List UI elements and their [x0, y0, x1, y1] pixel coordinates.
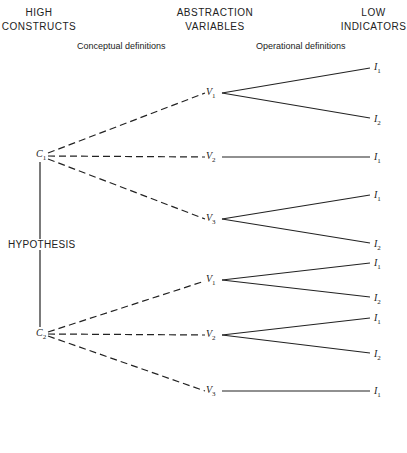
indicator: I2	[374, 348, 381, 362]
variable-c1-v1: V1	[206, 86, 216, 100]
hypothesis-label: HYPOTHESIS	[8, 239, 75, 250]
construct-c2: C2	[36, 327, 46, 341]
indicator: I1	[374, 257, 381, 271]
indicator: I1	[374, 312, 381, 326]
indicator: I1	[374, 189, 381, 203]
indicator: I1	[374, 61, 381, 75]
variable-c1-v3: V3	[206, 212, 216, 226]
diagram-lines	[0, 0, 407, 453]
variable-c1-v2: V2	[206, 150, 216, 164]
variable-c2-v1: V1	[206, 273, 216, 287]
header-abstraction-variables: ABSTRACTION VARIABLES	[165, 6, 265, 34]
header-high-constructs: HIGH CONSTRUCTS	[0, 6, 78, 34]
indicator: I2	[374, 238, 381, 252]
construct-c1: C1	[36, 148, 46, 162]
header-low-indicators: LOW INDICATORS	[340, 6, 407, 34]
indicator: I1	[374, 385, 381, 399]
conceptual-definitions-label: Conceptual definitions	[77, 41, 166, 51]
variable-c2-v3: V3	[206, 384, 216, 398]
indicator: I2	[374, 292, 381, 306]
indicator: I2	[374, 113, 381, 127]
operational-definitions-label: Operational definitions	[256, 41, 346, 51]
variable-c2-v2: V2	[206, 328, 216, 342]
indicator: I1	[374, 151, 381, 165]
